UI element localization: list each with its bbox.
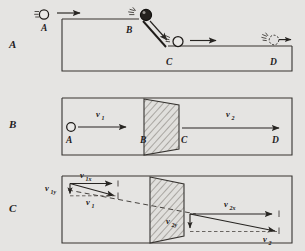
figure-canvas: A A B C [0, 0, 305, 251]
scan-grain [0, 0, 305, 251]
